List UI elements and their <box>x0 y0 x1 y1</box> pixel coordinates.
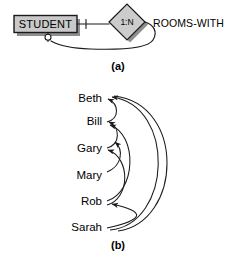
part-b-group: Beth Bill Gary Mary Rob Sarah <box>71 92 167 251</box>
figure-root: STUDENT 1:N ROOMS-WITH (a) <box>0 0 240 257</box>
relationship-name-label: ROOMS-WITH <box>153 17 224 29</box>
diamond-cardinality-label: 1:N <box>120 17 133 27</box>
part-a-caption: (a) <box>111 60 125 72</box>
person-label-mary: Mary <box>76 169 102 181</box>
person-label-sarah: Sarah <box>71 221 102 233</box>
person-label-gary: Gary <box>77 142 102 154</box>
zero-connector-circle <box>45 34 51 40</box>
person-label-bill: Bill <box>87 115 102 127</box>
arc-bill-to-beth <box>107 99 117 122</box>
part-b-caption: (b) <box>111 239 125 251</box>
part-a-group: STUDENT 1:N ROOMS-WITH (a) <box>14 4 224 72</box>
student-entity-label: STUDENT <box>19 18 72 30</box>
person-label-beth: Beth <box>78 92 102 104</box>
person-label-rob: Rob <box>81 195 102 207</box>
er-figure-canvas: STUDENT 1:N ROOMS-WITH (a) <box>0 0 240 257</box>
arc-sarah-to-rob <box>107 204 137 228</box>
relationship-diamond[interactable]: 1:N <box>109 4 148 43</box>
student-entity-box[interactable]: STUDENT <box>14 16 80 37</box>
